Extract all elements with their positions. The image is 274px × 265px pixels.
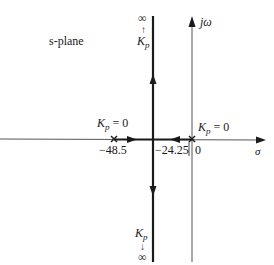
origin-value: 0 xyxy=(195,143,201,157)
root-locus-diagram: s-plane jω σ −48.5 −24.25 0 Kp = 0 Kp = … xyxy=(0,0,274,265)
top-gain: Kp xyxy=(136,34,150,50)
real-axis-arrow-icon xyxy=(256,137,266,144)
locus-arrow-left-icon xyxy=(170,136,180,143)
locus-arrow-right-icon xyxy=(127,136,137,143)
breakaway-value: −24.25 xyxy=(155,143,189,157)
real-axis-label: σ xyxy=(255,145,261,157)
imaginary-axis-arrow-icon xyxy=(189,16,196,27)
bottom-gain: Kp xyxy=(134,226,148,242)
pole-left-gain: Kp = 0 xyxy=(96,116,128,132)
top-infinity: ∞ xyxy=(138,11,147,25)
imaginary-axis-label: jω xyxy=(198,15,212,29)
locus-arrow-up-icon xyxy=(150,74,157,84)
pole-origin-gain: Kp = 0 xyxy=(197,120,229,136)
plane-label: s-plane xyxy=(49,34,84,48)
bottom-infinity: ∞ xyxy=(138,250,147,264)
pole-left-value: −48.5 xyxy=(99,143,127,157)
plane-label-text: s-plane xyxy=(49,34,84,48)
locus-arrow-down-icon xyxy=(150,186,157,196)
